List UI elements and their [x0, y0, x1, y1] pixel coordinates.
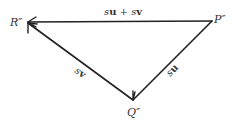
edge-su-plus-sv — [28, 21, 212, 22]
vector-triangle-diagram: R″ P″ Q″ su + sv sv su — [0, 0, 239, 123]
edge-label-sv: sv — [73, 65, 89, 81]
edge-label-su: su — [164, 62, 181, 79]
edge-label-su-plus-sv: su + sv — [104, 6, 143, 17]
edge-sv — [28, 23, 133, 100]
vertex-label-r: R″ — [9, 16, 23, 29]
vertex-label-p: P″ — [213, 13, 226, 26]
edge-su — [133, 21, 212, 100]
vertex-label-q: Q″ — [127, 106, 141, 119]
